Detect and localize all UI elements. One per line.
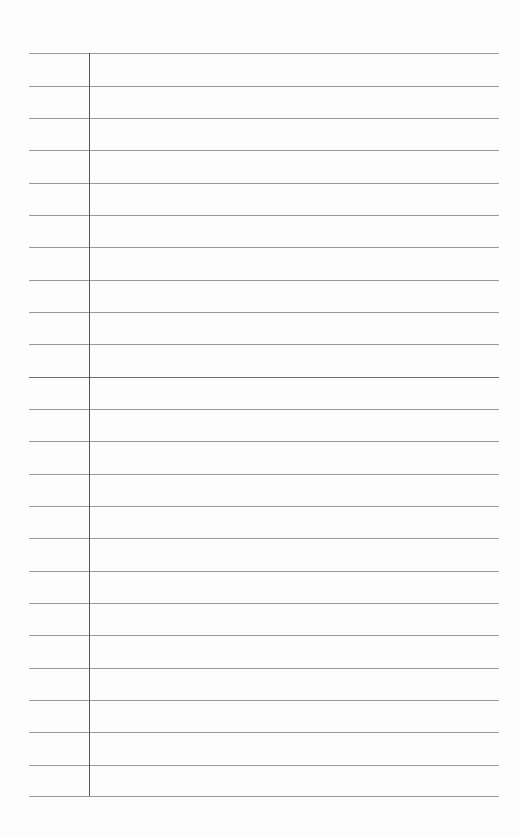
ruled-line <box>29 765 499 766</box>
ruled-line <box>29 247 499 248</box>
ruled-line <box>29 280 499 281</box>
notebook-page <box>0 0 519 837</box>
ruled-line <box>29 668 499 669</box>
ruled-line <box>29 506 499 507</box>
ruled-line <box>29 377 499 378</box>
ruled-line <box>29 215 499 216</box>
ruled-line <box>29 183 499 184</box>
ruled-line <box>29 312 499 313</box>
ruled-line <box>29 344 499 345</box>
ruled-line <box>29 635 499 636</box>
ruled-line <box>29 603 499 604</box>
ruled-line <box>29 732 499 733</box>
ruled-line <box>29 571 499 572</box>
ruled-line <box>29 474 499 475</box>
ruled-line <box>29 53 499 54</box>
ruled-line <box>29 409 499 410</box>
ruled-line <box>29 150 499 151</box>
ruled-line <box>29 700 499 701</box>
ruled-line <box>29 441 499 442</box>
ruled-line <box>29 86 499 87</box>
margin-line <box>89 53 90 796</box>
ruled-line <box>29 538 499 539</box>
ruled-line <box>29 118 499 119</box>
ruled-line <box>29 796 499 797</box>
